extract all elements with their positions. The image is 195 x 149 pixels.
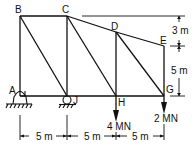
node-label-B: B xyxy=(15,4,22,15)
truss-diagram: B C D E A J H G 4 MN 2 MN 3 m 5 m xyxy=(0,0,195,149)
dim-label-5m-2: 5 m xyxy=(84,131,101,142)
member-BJ xyxy=(20,16,67,96)
node-label-C: C xyxy=(62,4,69,15)
load-label-4MN: 4 MN xyxy=(107,121,131,132)
dim-label-5m-1: 5 m xyxy=(36,131,53,142)
node-label-J: J xyxy=(73,95,78,106)
node-label-H: H xyxy=(118,97,125,108)
member-DE xyxy=(116,32,164,46)
member-DG xyxy=(116,32,164,96)
dim-label-3m: 3 m xyxy=(172,25,189,36)
member-CD xyxy=(67,16,116,32)
truss-members xyxy=(20,16,164,96)
node-label-A: A xyxy=(9,85,16,96)
node-label-D: D xyxy=(111,21,118,32)
load-label-2MN: 2 MN xyxy=(154,113,178,124)
dim-label-5m-vertical: 5 m xyxy=(171,65,188,76)
node-label-G: G xyxy=(166,84,174,95)
load-arrow-G xyxy=(161,96,167,114)
dim-label-5m-3: 5 m xyxy=(132,131,149,142)
member-CH xyxy=(67,16,116,96)
node-label-E: E xyxy=(160,35,167,46)
